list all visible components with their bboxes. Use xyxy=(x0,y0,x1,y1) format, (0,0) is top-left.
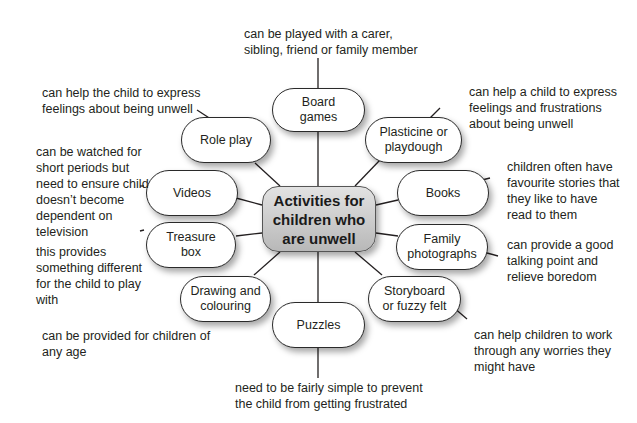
node-books: Books xyxy=(397,170,489,216)
note-treasure-box: this provides something different for th… xyxy=(36,244,142,308)
node-plasticine: Plasticine or playdough xyxy=(365,117,462,163)
node-storyboard: Storyboard or fuzzy felt xyxy=(368,276,461,322)
node-puzzles: Puzzles xyxy=(272,302,365,348)
node-treasure-box: Treasure box xyxy=(146,222,236,268)
note-storyboard: can help children to work through any wo… xyxy=(474,327,612,375)
note-drawing: can be provided for children of any age xyxy=(42,328,210,360)
note-plasticine: can help a child to express feelings and… xyxy=(469,84,617,132)
note-family-photographs: can provide a good talking point and rel… xyxy=(507,237,613,285)
node-role-play: Role play xyxy=(181,117,271,163)
note-board-games: can be played with a carer, sibling, fri… xyxy=(244,26,418,58)
note-videos: can be watched for short periods but nee… xyxy=(36,144,149,240)
note-puzzles: need to be fairly simple to prevent the … xyxy=(235,380,423,412)
note-books: children often have favourite stories th… xyxy=(507,159,620,223)
node-family-photographs: Family photographs xyxy=(396,224,488,270)
node-board-games: Board games xyxy=(272,88,365,132)
node-drawing: Drawing and colouring xyxy=(180,276,271,322)
node-videos: Videos xyxy=(146,170,238,216)
note-role-play: can help the child to express feelings a… xyxy=(42,85,200,117)
central-topic: Activities for children who are unwell xyxy=(262,186,376,252)
